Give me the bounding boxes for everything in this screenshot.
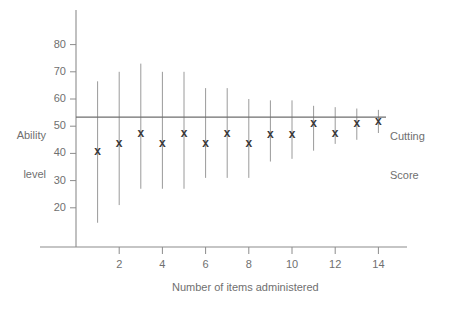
x-axis-title: Number of items administered bbox=[172, 281, 319, 293]
data-point-marker: x bbox=[137, 126, 144, 140]
x-tick-label: 2 bbox=[109, 258, 129, 270]
x-tick-label: 14 bbox=[368, 258, 388, 270]
data-point-marker: x bbox=[245, 136, 252, 150]
cutting-score-label-line-2: Score bbox=[390, 169, 425, 182]
y-tick-label: 60 bbox=[44, 92, 66, 104]
data-point-marker: x bbox=[267, 127, 274, 141]
y-tick-label: 20 bbox=[44, 201, 66, 213]
y-axis-title-line-1: Ability bbox=[2, 129, 46, 142]
y-axis-title-line-2: level bbox=[2, 168, 46, 181]
plot-area: xxxxxxxxxxxxxx 20304050607080 2468101214 bbox=[0, 0, 450, 312]
data-point-marker: x bbox=[94, 144, 101, 158]
error-bars-group bbox=[98, 64, 379, 223]
x-axis-ticks bbox=[119, 247, 378, 254]
data-point-marker: x bbox=[159, 136, 166, 150]
y-tick-label: 30 bbox=[44, 174, 66, 186]
y-axis-ticks bbox=[70, 45, 76, 208]
cutting-score-label-line-1: Cutting bbox=[390, 130, 425, 143]
data-point-marker: x bbox=[289, 127, 296, 141]
data-point-marker: x bbox=[353, 116, 360, 130]
data-point-marker: x bbox=[116, 136, 123, 150]
data-point-marker: x bbox=[332, 126, 339, 140]
data-point-marker: x bbox=[224, 126, 231, 140]
x-tick-label: 12 bbox=[325, 258, 345, 270]
x-tick-label: 10 bbox=[282, 258, 302, 270]
x-tick-label: 8 bbox=[239, 258, 259, 270]
y-axis-title: Ability level bbox=[2, 103, 46, 207]
y-tick-label: 70 bbox=[44, 65, 66, 77]
data-point-marker: x bbox=[181, 126, 188, 140]
ability-estimation-chart: xxxxxxxxxxxxxx 20304050607080 2468101214… bbox=[0, 0, 450, 312]
y-tick-label: 50 bbox=[44, 119, 66, 131]
y-tick-label: 80 bbox=[44, 38, 66, 50]
data-point-marker: x bbox=[202, 136, 209, 150]
data-point-marker: x bbox=[375, 114, 382, 128]
y-tick-label: 40 bbox=[44, 146, 66, 158]
x-tick-label: 6 bbox=[196, 258, 216, 270]
cutting-score-label: Cutting Score bbox=[390, 104, 425, 208]
data-point-marker: x bbox=[310, 116, 317, 130]
x-tick-label: 4 bbox=[152, 258, 172, 270]
